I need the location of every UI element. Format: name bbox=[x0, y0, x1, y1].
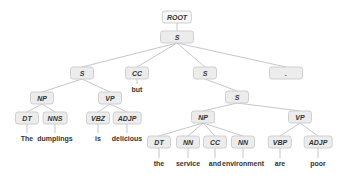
tree-node-nn: NN bbox=[231, 136, 255, 149]
token-word: but bbox=[132, 86, 143, 93]
edge-s2-s3 bbox=[205, 79, 237, 91]
token-word: delicious bbox=[112, 135, 142, 142]
edge-s1-vp1 bbox=[82, 79, 110, 92]
tree-node-dt: DT bbox=[147, 136, 171, 149]
tree-node-dt: DT bbox=[15, 112, 39, 125]
tree-node-vbz: VBZ bbox=[86, 112, 110, 125]
tree-node-root: ROOT bbox=[162, 11, 192, 24]
token-word: poor bbox=[310, 160, 326, 167]
tree-node-s: S bbox=[160, 31, 194, 44]
token-word: The bbox=[21, 135, 33, 142]
edge-s1-np1 bbox=[42, 79, 82, 92]
tree-node-s: S bbox=[225, 91, 249, 104]
tree-node-punct: . bbox=[269, 67, 303, 80]
token-word: is bbox=[95, 135, 101, 142]
token-word: are bbox=[275, 160, 286, 167]
edge-np2-dt2 bbox=[159, 123, 203, 136]
tree-node-cc: CC bbox=[203, 136, 227, 149]
token-word: and bbox=[209, 160, 221, 167]
token-word: dumplings bbox=[37, 135, 72, 142]
token-word: the bbox=[154, 160, 165, 167]
tree-node-s: S bbox=[70, 67, 94, 80]
tree-node-np: NP bbox=[30, 92, 54, 105]
edge-vp2-adjp2 bbox=[300, 123, 318, 136]
tree-node-vp: VP bbox=[288, 111, 312, 124]
tree-node-nn: NN bbox=[176, 136, 200, 149]
token-word: service bbox=[176, 160, 200, 167]
tree-node-s: S bbox=[193, 67, 217, 80]
edge-s0-s2 bbox=[177, 43, 205, 67]
tree-edges bbox=[0, 0, 348, 177]
edge-s0-s1 bbox=[82, 43, 177, 67]
tree-node-np: NP bbox=[191, 111, 215, 124]
tree-node-vbp: VBP bbox=[268, 136, 292, 149]
edge-s0-cc1 bbox=[137, 43, 177, 67]
tree-node-adjp: ADJP bbox=[113, 112, 142, 125]
tree-node-adjp: ADJP bbox=[304, 136, 333, 149]
tree-node-cc: CC bbox=[125, 67, 149, 80]
tree-node-nns: NNS bbox=[43, 112, 68, 125]
token-word: environment bbox=[222, 160, 264, 167]
tree-node-vp: VP bbox=[98, 92, 122, 105]
edge-vp2-vbp2 bbox=[280, 123, 300, 136]
edge-s0-punct bbox=[177, 43, 286, 67]
